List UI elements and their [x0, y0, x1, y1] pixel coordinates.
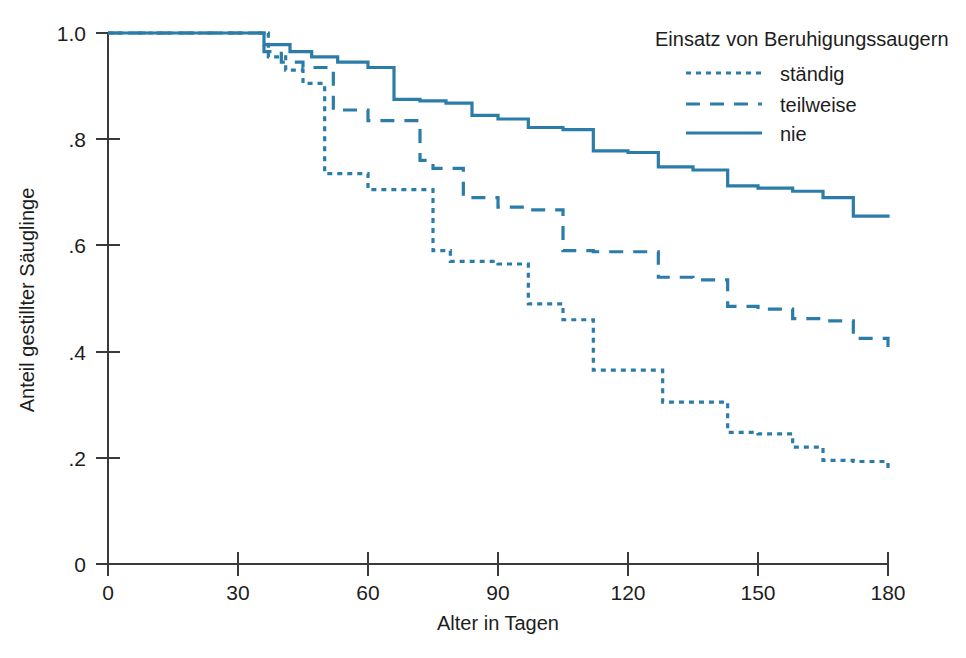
x-ticklabel-5: 150 [740, 581, 775, 604]
y-ticklabel-0: 1.0 [57, 22, 86, 45]
chart-svg: Anteil gestillter Säuglinge Alter in Tag… [0, 0, 966, 658]
x-axis-title: Alter in Tagen [437, 612, 559, 634]
x-axis-tick-labels: 0 30 60 90 120 150 180 [102, 581, 905, 604]
x-ticklabel-3: 90 [486, 581, 509, 604]
y-ticklabel-3: .4 [68, 341, 86, 364]
y-ticklabel-4: .2 [68, 447, 86, 470]
legend-label-staendig: ständig [780, 63, 845, 85]
legend: Einsatz von Beruhigungssaugern ständig t… [655, 28, 949, 145]
series-line-teilweise [108, 33, 888, 350]
series-group [108, 33, 888, 469]
x-ticklabel-6: 180 [870, 581, 905, 604]
legend-label-teilweise: teilweise [780, 94, 857, 116]
legend-label-nie: nie [780, 123, 807, 145]
y-ticklabel-1: .8 [68, 128, 86, 151]
x-ticklabel-0: 0 [102, 581, 114, 604]
y-ticklabel-5: 0 [74, 553, 86, 576]
series-line-nie [108, 33, 888, 218]
y-ticklabel-2: .6 [68, 234, 86, 257]
x-ticklabel-2: 60 [356, 581, 379, 604]
x-ticklabel-1: 30 [226, 581, 249, 604]
y-axis-title: Anteil gestillter Säuglinge [16, 188, 38, 413]
x-ticklabel-4: 120 [610, 581, 645, 604]
series-line-staendig [108, 33, 888, 469]
y-axis-tick-labels: 1.0 .8 .6 .4 .2 0 [57, 22, 87, 576]
legend-title: Einsatz von Beruhigungssaugern [655, 28, 949, 50]
chart-figure: Anteil gestillter Säuglinge Alter in Tag… [0, 0, 966, 658]
